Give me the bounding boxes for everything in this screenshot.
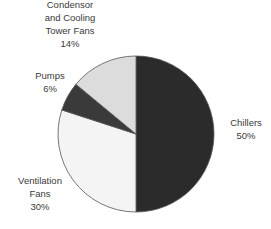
- slice-chillers: [136, 56, 214, 212]
- label-condensor-cooling-tower-fans-line: and Cooling: [45, 12, 96, 23]
- label-ventilation-fans-line: Fans: [29, 188, 50, 199]
- label-chillers-line: Chillers: [230, 117, 262, 128]
- label-chillers: Chillers50%: [230, 117, 262, 141]
- label-pumps-line: Pumps: [35, 70, 65, 81]
- label-ventilation-fans-line: Ventilation: [18, 175, 62, 186]
- label-condensor-cooling-tower-fans-line: Condensor: [47, 0, 93, 10]
- label-chillers-line: 50%: [236, 130, 256, 141]
- label-condensor-cooling-tower-fans: Condensorand CoolingTower Fans14%: [45, 0, 96, 49]
- label-pumps: Pumps6%: [35, 70, 65, 94]
- label-ventilation-fans: VentilationFans30%: [18, 175, 62, 212]
- label-pumps-line: 6%: [43, 83, 57, 94]
- pie-chart: Chillers50%VentilationFans30%Pumps6%Cond…: [0, 0, 271, 229]
- label-condensor-cooling-tower-fans-line: 14%: [60, 38, 80, 49]
- label-condensor-cooling-tower-fans-line: Tower Fans: [45, 25, 94, 36]
- label-ventilation-fans-line: 30%: [30, 201, 50, 212]
